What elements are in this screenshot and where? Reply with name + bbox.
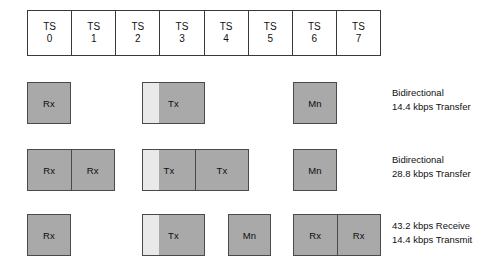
timeslot-index: 2 xyxy=(135,33,141,46)
block-segment: Tx xyxy=(143,150,196,190)
timeslot-label: TS xyxy=(264,21,277,34)
block-label: Rx xyxy=(87,165,99,176)
block-row1-mn: Mn xyxy=(293,82,337,124)
timeslot-label: TS xyxy=(308,21,321,34)
block-row1-rx: Rx xyxy=(27,82,71,124)
timeslot-cell-7: TS 7 xyxy=(337,11,380,55)
annotation-line-2: 28.8 kbps Transfer xyxy=(392,167,471,181)
block-label: Mn xyxy=(308,165,322,176)
block-label: Tx xyxy=(168,230,179,241)
block-label: Tx xyxy=(164,165,175,176)
annotation-line-1: Bidirectional xyxy=(392,86,471,100)
block-segment: Rx xyxy=(72,150,115,190)
block-row3-rx: Rx xyxy=(27,214,71,256)
block-label: Rx xyxy=(43,98,55,109)
block-segment: Rx xyxy=(338,215,381,255)
block-segment: Tx xyxy=(143,83,204,123)
timeslot-cell-0: TS 0 xyxy=(28,11,72,55)
timeslot-label: TS xyxy=(176,21,189,34)
block-segment: Rx xyxy=(294,215,338,255)
timeslot-label: TS xyxy=(43,21,56,34)
block-row3-rx-pair: Rx Rx xyxy=(293,214,381,256)
block-label: Mn xyxy=(243,230,257,241)
block-segment: Mn xyxy=(294,150,336,190)
block-segment: Mn xyxy=(294,83,336,123)
timeslot-index: 1 xyxy=(91,33,97,46)
block-label: Rx xyxy=(43,165,55,176)
block-segment: Rx xyxy=(28,215,70,255)
block-row2-tx-pair: Tx Tx xyxy=(142,149,249,191)
timeslot-index: 6 xyxy=(312,33,318,46)
timeslot-label: TS xyxy=(352,21,365,34)
block-label: Rx xyxy=(353,230,365,241)
block-label: Mn xyxy=(308,98,322,109)
row-2-annotation: Bidirectional 28.8 kbps Transfer xyxy=(392,153,471,181)
block-label: Tx xyxy=(168,98,179,109)
timeslot-cell-1: TS 1 xyxy=(72,11,116,55)
annotation-line-2: 14.4 kbps Transmit xyxy=(392,233,472,247)
block-label: Rx xyxy=(309,230,321,241)
annotation-line-1: Bidirectional xyxy=(392,153,471,167)
timeslot-index: 7 xyxy=(356,33,362,46)
block-row2-mn: Mn xyxy=(293,149,337,191)
block-segment: Rx xyxy=(28,150,72,190)
block-segment: Tx xyxy=(143,215,204,255)
timeslot-cell-5: TS 5 xyxy=(249,11,293,55)
timeslot-index: 0 xyxy=(47,33,53,46)
annotation-line-1: 43.2 kbps Receive xyxy=(392,219,472,233)
row-3-annotation: 43.2 kbps Receive 14.4 kbps Transmit xyxy=(392,219,472,247)
block-row1-tx: Tx xyxy=(142,82,205,124)
block-row2-rx-pair: Rx Rx xyxy=(27,149,115,191)
block-segment: Mn xyxy=(229,215,270,255)
timeslot-cell-6: TS 6 xyxy=(293,11,337,55)
timeslot-index: 5 xyxy=(267,33,273,46)
timeslot-label: TS xyxy=(220,21,233,34)
diagram-canvas: TS 0 TS 1 TS 2 TS 3 TS 4 TS 5 TS 6 TS 7 xyxy=(0,0,504,275)
timeslot-cell-2: TS 2 xyxy=(116,11,160,55)
timeslot-label: TS xyxy=(87,21,100,34)
block-segment: Tx xyxy=(196,150,248,190)
annotation-line-2: 14.4 kbps Transfer xyxy=(392,100,471,114)
timeslot-header-table: TS 0 TS 1 TS 2 TS 3 TS 4 TS 5 TS 6 TS 7 xyxy=(27,10,381,56)
timeslot-cell-3: TS 3 xyxy=(160,11,204,55)
timeslot-cell-4: TS 4 xyxy=(205,11,249,55)
block-row3-mn: Mn xyxy=(228,214,271,256)
block-label: Tx xyxy=(217,165,228,176)
timeslot-label: TS xyxy=(131,21,144,34)
block-label: Rx xyxy=(43,230,55,241)
block-row3-tx: Tx xyxy=(142,214,205,256)
row-1-annotation: Bidirectional 14.4 kbps Transfer xyxy=(392,86,471,114)
timeslot-index: 4 xyxy=(223,33,229,46)
block-segment: Rx xyxy=(28,83,70,123)
timeslot-index: 3 xyxy=(179,33,185,46)
